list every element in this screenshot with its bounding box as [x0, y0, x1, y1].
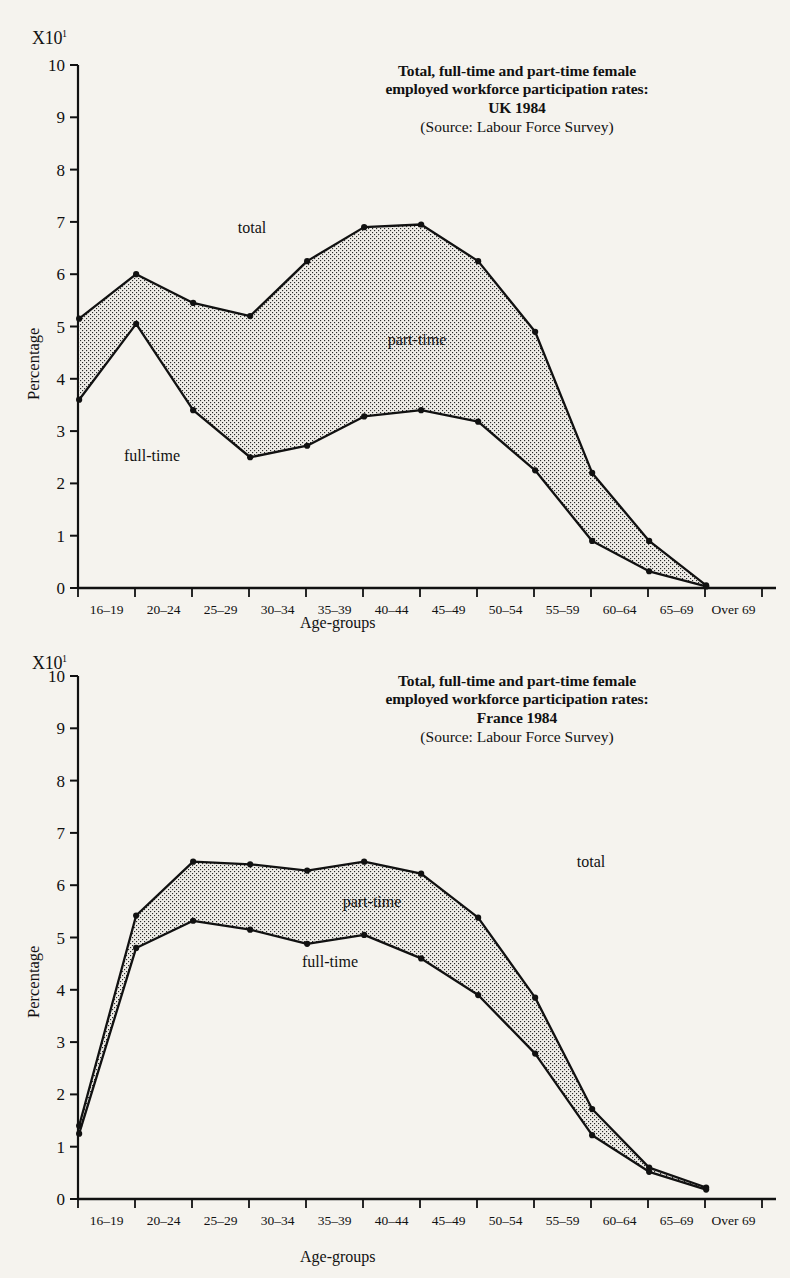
data-point-marker: [304, 867, 310, 873]
x-axis-tick-label: 40–44: [375, 1213, 409, 1228]
data-point-marker: [532, 467, 538, 473]
data-point-marker: [475, 992, 481, 998]
full-time-line: [79, 921, 706, 1190]
x-axis-tick-label: 40–44: [375, 602, 409, 617]
data-point-marker: [418, 955, 424, 961]
data-point-marker: [418, 221, 424, 227]
data-point-marker: [76, 316, 82, 322]
y-axis-multiplier: X101: [32, 653, 67, 674]
data-point-marker: [247, 313, 253, 319]
y-axis-tick-label: 8: [57, 772, 66, 791]
chart-title-block: Total, full-time and part-time female em…: [332, 62, 702, 136]
x-axis-tick-label: Over 69: [712, 602, 756, 617]
y-axis-tick-label: 6: [57, 265, 66, 284]
data-point-marker: [133, 321, 139, 327]
data-point-marker: [646, 1169, 652, 1175]
x-axis-tick-label: 25–29: [204, 1213, 238, 1228]
part-time-band-area: [79, 225, 706, 587]
data-point-marker: [76, 397, 82, 403]
series-label-part-time: part-time: [343, 893, 402, 911]
series-label-total: total: [238, 219, 267, 236]
series-label-part-time: part-time: [388, 331, 447, 349]
y-axis-tick-label: 5: [57, 318, 66, 337]
chart-source: (Source: Labour Force Survey): [332, 728, 702, 746]
x-axis-tick-label: 55–59: [546, 1213, 580, 1228]
data-point-marker: [190, 918, 196, 924]
data-point-marker: [475, 915, 481, 921]
data-point-marker: [703, 1186, 709, 1192]
y-axis-title: Percentage: [24, 946, 44, 1018]
data-point-marker: [646, 538, 652, 544]
data-point-marker: [304, 258, 310, 264]
x-axis-tick-label: 55–59: [546, 602, 580, 617]
series-label-full-time: full-time: [124, 447, 180, 464]
y-axis-multiplier-exponent: 1: [62, 28, 67, 39]
x-axis-tick-label: 50–54: [489, 602, 523, 617]
data-point-marker: [304, 941, 310, 947]
data-point-marker: [190, 407, 196, 413]
data-point-marker: [133, 912, 139, 918]
x-axis-tick-label: 65–69: [660, 1213, 694, 1228]
data-point-marker: [589, 470, 595, 476]
y-axis-tick-label: 9: [57, 108, 66, 127]
x-axis-tick-label: 45–49: [432, 602, 466, 617]
data-point-marker: [247, 861, 253, 867]
y-axis-tick-label: 3: [57, 422, 66, 441]
data-point-marker: [475, 419, 481, 425]
y-axis-multiplier-base: X10: [32, 28, 62, 48]
x-axis-tick-label: Over 69: [712, 1213, 756, 1228]
chart-title-line-2: employed workforce participation rates:: [332, 80, 702, 98]
y-axis-tick-label: 6: [57, 876, 66, 895]
data-point-marker: [76, 1131, 82, 1137]
data-point-marker: [532, 995, 538, 1001]
data-point-marker: [532, 1051, 538, 1057]
chart-title-line-1: Total, full-time and part-time female: [332, 672, 702, 690]
data-point-marker: [190, 300, 196, 306]
chart-title-block: Total, full-time and part-time female em…: [332, 672, 702, 746]
series-label-full-time: full-time: [302, 953, 358, 970]
y-axis-tick-label: 8: [57, 161, 66, 180]
y-axis-tick-label: 2: [57, 474, 66, 493]
x-axis-tick-label: 20–24: [147, 602, 181, 617]
y-axis-tick-label: 0: [57, 1190, 66, 1209]
y-axis-tick-label: 10: [48, 56, 65, 75]
part-time-band-area: [79, 862, 706, 1190]
data-point-marker: [304, 443, 310, 449]
data-point-marker: [475, 258, 481, 264]
data-point-marker: [361, 224, 367, 230]
data-point-marker: [703, 583, 709, 589]
data-point-marker: [361, 413, 367, 419]
x-axis-tick-label: 60–64: [603, 602, 637, 617]
data-point-marker: [190, 859, 196, 865]
data-point-marker: [589, 538, 595, 544]
data-point-marker: [589, 1132, 595, 1138]
y-axis-multiplier: X101: [32, 28, 67, 49]
y-axis-title: Percentage: [24, 328, 44, 400]
x-axis-tick-label: 60–64: [603, 1213, 637, 1228]
x-axis-tick-label: 50–54: [489, 1213, 523, 1228]
x-axis-title: Age-groups: [300, 1248, 376, 1266]
y-axis-tick-label: 4: [57, 370, 66, 389]
data-point-marker: [589, 1106, 595, 1112]
series-label-total: total: [577, 853, 606, 870]
y-axis-tick-label: 9: [57, 719, 66, 738]
y-axis-tick-label: 5: [57, 929, 66, 948]
scanned-page: X101 Total, full-time and part-time fema…: [0, 0, 790, 1278]
chart-title-line-3: UK 1984: [332, 99, 702, 117]
chart-title-line-3: France 1984: [332, 709, 702, 727]
x-axis-tick-label: 30–34: [261, 1213, 295, 1228]
x-axis-tick-label: 45–49: [432, 1213, 466, 1228]
x-axis-tick-label: 16–19: [90, 1213, 124, 1228]
data-point-marker: [247, 454, 253, 460]
data-point-marker: [361, 932, 367, 938]
y-axis-tick-label: 7: [57, 213, 66, 232]
x-axis-tick-label: 16–19: [90, 602, 124, 617]
data-point-marker: [532, 329, 538, 335]
y-axis-tick-label: 0: [57, 579, 66, 598]
y-axis-multiplier-exponent: 1: [62, 653, 67, 664]
y-axis-tick-label: 2: [57, 1085, 66, 1104]
y-axis-tick-label: 1: [57, 527, 66, 546]
y-axis-tick-label: 7: [57, 824, 66, 843]
y-axis-multiplier-base: X10: [32, 653, 62, 673]
y-axis-tick-label: 4: [57, 981, 66, 1000]
